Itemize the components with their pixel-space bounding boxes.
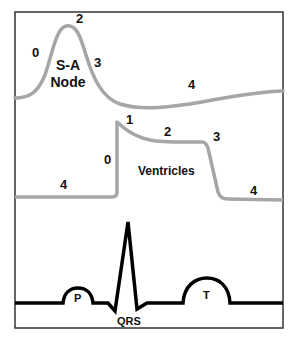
ecg-p-wave-label: P: [74, 293, 81, 304]
ventricle-phase-4-right-label: 4: [250, 184, 257, 197]
sa-node-phase-2-label: 2: [76, 12, 83, 25]
ventricles-title: Ventricles: [138, 165, 195, 177]
ventricle-phase-0-label: 0: [104, 153, 111, 166]
ecg-trace: [15, 222, 283, 311]
sa-node-phase-0-label: 0: [32, 46, 39, 59]
ventricle-phase-2-label: 2: [164, 125, 171, 138]
sa-node-phase-3-label: 3: [94, 56, 101, 69]
cardiac-action-potential-diagram: 0 2 3 4 S-A Node 1 0 2 3 4 4 Ventricles …: [0, 0, 293, 341]
sa-node-phase-4-label: 4: [188, 78, 195, 91]
sa-node-title: S-A Node: [48, 58, 88, 89]
ecg-t-wave-label: T: [203, 290, 210, 301]
sa-node-title-line1: S-A: [48, 58, 88, 72]
ventricle-phase-4-left-label: 4: [60, 178, 67, 191]
sa-node-title-line2: Node: [48, 75, 88, 89]
ventricle-phase-1-label: 1: [126, 113, 133, 126]
ventricle-action-potential-curve: [15, 122, 283, 200]
ventricle-phase-3-label: 3: [213, 130, 220, 143]
ecg-qrs-complex-label: QRS: [117, 316, 141, 327]
